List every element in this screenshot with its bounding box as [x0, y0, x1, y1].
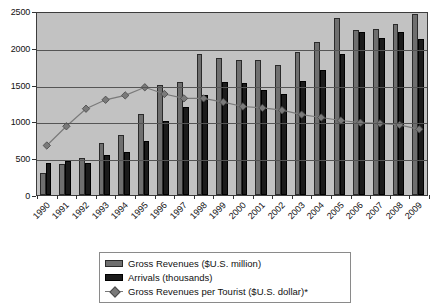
y-axis-tick-mark	[32, 196, 36, 197]
chart-legend: Gross Revenues ($U.S. million) Arrivals …	[99, 252, 351, 303]
legend-label-gross-revenues: Gross Revenues ($U.S. million)	[128, 258, 261, 269]
line-marker-1997	[180, 95, 187, 102]
line-marker-2002	[278, 107, 285, 114]
line-marker-1993	[102, 96, 109, 103]
y-axis-tick-mark	[32, 122, 36, 123]
revenues-per-tourist-line	[37, 13, 429, 197]
line-marker-1994	[122, 92, 129, 99]
legend-swatch-gross-revenues	[105, 260, 123, 267]
y-axis-tick-label: 1000	[0, 117, 30, 127]
line-marker-2008	[396, 121, 403, 128]
y-axis-tick-label: 0	[0, 191, 30, 201]
chart-container: 05001000150020002500 1990199119921993199…	[0, 0, 430, 304]
y-axis-tick-label: 2500	[0, 7, 30, 17]
legend-item-revenues-per-tourist: Gross Revenues per Tourist ($U.S. dollar…	[105, 284, 345, 298]
line-series-layer	[37, 13, 427, 195]
y-axis-tick-mark	[32, 49, 36, 50]
line-marker-1999	[220, 98, 227, 105]
line-path	[47, 87, 419, 145]
grid-line	[37, 87, 427, 88]
line-marker-1996	[161, 90, 168, 97]
legend-item-gross-revenues: Gross Revenues ($U.S. million)	[105, 256, 345, 270]
y-axis-tick-label: 1500	[0, 81, 30, 91]
line-marker-2009	[416, 126, 423, 133]
line-marker-2004	[318, 114, 325, 121]
y-axis-tick-label: 2000	[0, 44, 30, 54]
y-axis-tick-mark	[32, 12, 36, 13]
plot-area	[36, 12, 428, 196]
legend-swatch-arrivals	[105, 274, 123, 281]
y-axis-tick-label: 500	[0, 154, 30, 164]
line-marker-2001	[259, 104, 266, 111]
y-axis-tick-mark	[32, 86, 36, 87]
grid-line	[37, 160, 427, 161]
legend-swatch-revenues-per-tourist	[105, 287, 123, 296]
legend-item-arrivals: Arrivals (thousands)	[105, 270, 345, 284]
legend-label-revenues-per-tourist: Gross Revenues per Tourist ($U.S. dollar…	[128, 286, 308, 297]
line-marker-2003	[298, 111, 305, 118]
grid-line	[37, 50, 427, 51]
line-marker-1998	[200, 95, 207, 102]
y-axis-tick-mark	[32, 159, 36, 160]
line-marker-2000	[239, 103, 246, 110]
x-axis-labels: 1990199119921993199419951996199719981999…	[36, 200, 428, 244]
legend-label-arrivals: Arrivals (thousands)	[128, 272, 212, 283]
grid-line	[37, 123, 427, 124]
